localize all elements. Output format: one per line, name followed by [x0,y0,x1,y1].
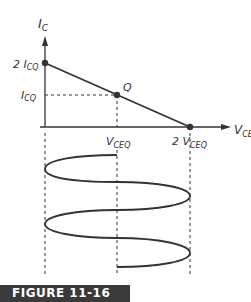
y-max-label: 2 ICQ [13,58,39,72]
x-max-label: 2 VCEQ [172,135,207,150]
sat-point [42,60,48,66]
x-axis-label: VCE [234,123,251,139]
y-axis-label: IC [38,16,49,33]
load-line-diagram: IC VCE 2 ICQ ICQ VCEQ 2 VCEQ Q [0,0,251,302]
y-mid-label: ICQ [21,89,36,103]
x-axis-arrow-icon [221,124,231,130]
cutoff-point [187,124,193,130]
x-mid-label: VCEQ [106,135,130,150]
figure-caption: FIGURE 11-16 [0,285,130,302]
q-label: Q [123,81,132,94]
y-axis-arrow-icon [42,36,48,46]
